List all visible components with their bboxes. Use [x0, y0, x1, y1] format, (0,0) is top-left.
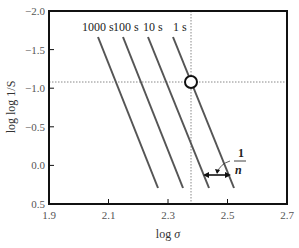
y-tick-label: −1.0: [25, 82, 45, 94]
x-tick-label: 2.1: [102, 209, 116, 221]
plot-frame: [49, 11, 287, 204]
series-label-1s: 1 s: [173, 20, 187, 34]
series-1s: [173, 37, 234, 188]
series-label-10s: 10 s: [143, 20, 163, 34]
x-tick-label: 2.3: [161, 209, 175, 221]
series-label-100s: 100 s: [113, 20, 139, 34]
series-100s: [123, 37, 183, 188]
annotation-numerator: 1: [238, 146, 244, 160]
series-lines: [98, 37, 234, 188]
y-tick-label: 0.0: [31, 159, 45, 171]
y-axis-label: log log 1/S: [4, 81, 18, 134]
annotation-denominator: n: [235, 163, 242, 177]
y-tick-label: −1.5: [25, 44, 45, 56]
reference-point-marker: [185, 76, 197, 88]
x-tick-label: 2.7: [280, 209, 294, 221]
y-tick-label: −2.0: [25, 5, 45, 17]
series-1000s: [98, 37, 158, 188]
y-tick-label: −0.5: [25, 121, 45, 133]
chart: 1000 s 100 s 10 s 1 s 1 n −2.0 −1.5 −1.0…: [0, 0, 299, 248]
series-label-1000s: 1000 s: [82, 20, 114, 34]
x-axis-label: log σ: [156, 227, 181, 241]
series-10s: [148, 37, 209, 188]
x-tick-label: 2.5: [221, 209, 235, 221]
x-tick-label: 1.9: [42, 209, 56, 221]
